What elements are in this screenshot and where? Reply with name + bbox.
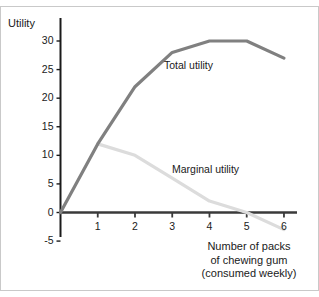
y-tick-label: 15 bbox=[32, 120, 54, 132]
x-tick-label: 2 bbox=[127, 220, 143, 232]
y-tick-label: 5 bbox=[32, 177, 54, 189]
series-annotation-total-utility: Total utility bbox=[164, 59, 213, 71]
y-tick-label: -5 bbox=[32, 234, 54, 246]
x-tick-label: 3 bbox=[164, 220, 180, 232]
y-tick-label: 20 bbox=[32, 91, 54, 103]
chart-figure: Utility Number of packs of chewing gum (… bbox=[0, 0, 319, 297]
series-line-marginal-utility bbox=[98, 144, 284, 230]
x-axis-title-line-3: (consumed weekly) bbox=[202, 267, 297, 279]
x-axis-title-line-2: of chewing gum bbox=[210, 254, 287, 266]
series-annotation-marginal-utility: Marginal utility bbox=[172, 163, 239, 175]
x-tick-label: 4 bbox=[201, 220, 217, 232]
y-tick-label: 30 bbox=[32, 34, 54, 46]
y-tick-label: 25 bbox=[32, 63, 54, 75]
x-axis-title: Number of packs of chewing gum (consumed… bbox=[186, 240, 312, 281]
x-tick-label: 1 bbox=[90, 220, 106, 232]
x-tick-label: 5 bbox=[239, 220, 255, 232]
y-tick-label: 0 bbox=[32, 206, 54, 218]
x-axis-title-line-1: Number of packs bbox=[207, 240, 290, 252]
y-axis-title: Utility bbox=[8, 17, 35, 29]
y-tick-label: 10 bbox=[32, 148, 54, 160]
x-tick-label: 6 bbox=[276, 220, 292, 232]
